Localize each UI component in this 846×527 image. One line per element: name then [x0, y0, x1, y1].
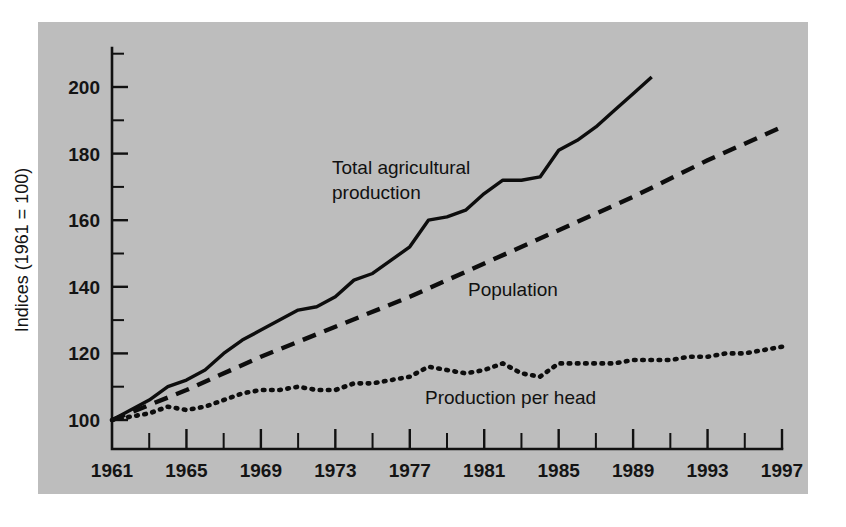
y-tick-label: 180	[68, 144, 100, 165]
x-tick-label: 1977	[389, 460, 431, 481]
annotation-total-agricultural-production-line1: Total agricultural	[332, 157, 470, 178]
annotation-production-per-head: Production per head	[425, 387, 596, 408]
chart-screenshot: 1001201401601802001961196519691973197719…	[0, 0, 846, 527]
y-tick-label: 160	[68, 210, 100, 231]
x-tick-label: 1969	[240, 460, 282, 481]
x-tick-label: 1985	[538, 460, 581, 481]
series-line-total-agricultural-production	[112, 77, 652, 420]
y-tick-label: 100	[68, 410, 100, 431]
x-tick-label: 1993	[686, 460, 728, 481]
y-tick-label: 200	[68, 77, 100, 98]
x-tick-label: 1973	[314, 460, 356, 481]
x-tick-label: 1989	[612, 460, 654, 481]
tick-labels: 1001201401601802001961196519691973197719…	[68, 77, 803, 481]
x-tick-label: 1981	[463, 460, 506, 481]
annotation-population: Population	[468, 279, 558, 300]
series-line-production-per-head	[112, 347, 782, 420]
y-axis-title: Indices (1961 = 100)	[12, 168, 32, 333]
data-series	[112, 77, 782, 420]
y-tick-label: 120	[68, 343, 100, 364]
y-tick-label: 140	[68, 277, 100, 298]
x-tick-label: 1961	[91, 460, 134, 481]
x-tick-label: 1997	[761, 460, 803, 481]
chart-plot-area: 1001201401601802001961196519691973197719…	[0, 0, 846, 527]
x-tick-label: 1965	[165, 460, 208, 481]
annotation-total-agricultural-production-line2: production	[332, 182, 421, 203]
